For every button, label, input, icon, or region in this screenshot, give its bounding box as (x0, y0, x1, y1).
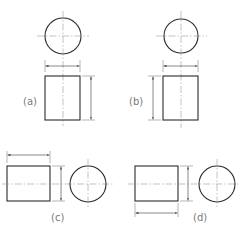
view-d: (d) (128, 159, 240, 223)
view-d-label: (d) (193, 212, 207, 223)
view-c-label: (c) (51, 212, 64, 223)
cylinder-dimensioning-diagram: (a) (b) (c) (0, 0, 244, 233)
view-a: (a) (23, 11, 95, 126)
view-b-label: (b) (129, 96, 143, 107)
view-a-rectangle (45, 76, 80, 120)
view-d-rectangle (135, 166, 178, 201)
view-b-rectangle (163, 76, 198, 120)
view-a-label: (a) (23, 96, 37, 107)
view-b: (b) (129, 11, 207, 128)
view-c: (c) (2, 151, 113, 223)
view-c-rectangle (7, 166, 50, 201)
